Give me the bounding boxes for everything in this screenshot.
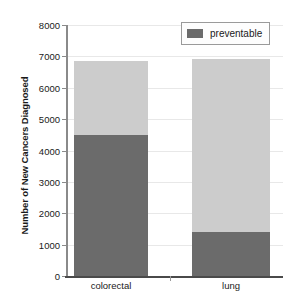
bar-segment-preventable-lung [192, 232, 270, 276]
legend: preventable [181, 22, 270, 45]
y-axis-tick-label: 7000 [39, 51, 60, 62]
bar-segment-not-preventable-colorectal [74, 61, 148, 135]
stacked-bar-chart: Number of New Cancers Diagnosed 01000200… [0, 0, 288, 306]
bar-segment-preventable-colorectal [74, 135, 148, 276]
bar-segment-not-preventable-lung [192, 59, 270, 233]
bar-colorectal [74, 25, 148, 276]
y-axis-tick-label: 1000 [39, 239, 60, 250]
x-axis-tick-label-colorectal: colorectal [91, 280, 132, 291]
y-axis-tick-label: 6000 [39, 82, 60, 93]
y-axis-tick-label: 4000 [39, 145, 60, 156]
y-axis-tick-label: 5000 [39, 114, 60, 125]
y-axis-tick-label: 0 [55, 271, 60, 282]
y-axis-tick-label: 3000 [39, 176, 60, 187]
x-axis-minor-tick [170, 276, 171, 281]
y-axis-tick-label: 8000 [39, 20, 60, 31]
legend-label-preventable: preventable [210, 28, 262, 39]
y-axis-line [66, 25, 68, 276]
bar-lung [192, 25, 270, 276]
y-axis-tick-label: 2000 [39, 208, 60, 219]
y-axis-title: Number of New Cancers Diagnosed [19, 41, 30, 271]
legend-swatch-preventable [187, 29, 203, 38]
x-axis-line [65, 276, 283, 278]
plot-area: 010002000300040005000600070008000 colore… [66, 25, 283, 276]
x-axis-tick-label-lung: lung [222, 280, 240, 291]
